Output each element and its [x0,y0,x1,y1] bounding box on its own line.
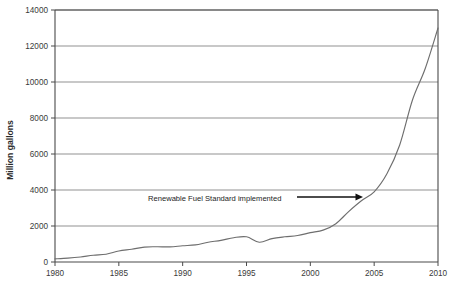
y-tick-label-14000: 14000 [25,6,48,15]
chart-background [0,0,453,291]
x-tick-label-1985: 1985 [110,269,129,278]
x-tick-label-1980: 1980 [46,269,65,278]
annotation-label: Renewable Fuel Standard implemented [148,194,281,203]
y-tick-label-0: 0 [43,258,48,267]
x-tick-label-2010: 2010 [429,269,448,278]
y-tick-label-6000: 6000 [30,150,49,159]
chart-figure: 02000400060008000100001200014000 1980198… [0,0,453,291]
x-tick-label-2005: 2005 [365,269,384,278]
x-tick-label-2000: 2000 [301,269,320,278]
ethanol-production-line-chart: 02000400060008000100001200014000 1980198… [0,0,453,291]
y-tick-label-12000: 12000 [25,42,48,51]
y-tick-label-4000: 4000 [30,186,49,195]
y-axis-title: Million gallons [5,120,15,180]
x-tick-label-1990: 1990 [174,269,193,278]
y-tick-label-10000: 10000 [25,78,48,87]
y-tick-label-2000: 2000 [30,222,49,231]
x-tick-label-1995: 1995 [237,269,256,278]
y-tick-label-8000: 8000 [30,114,49,123]
